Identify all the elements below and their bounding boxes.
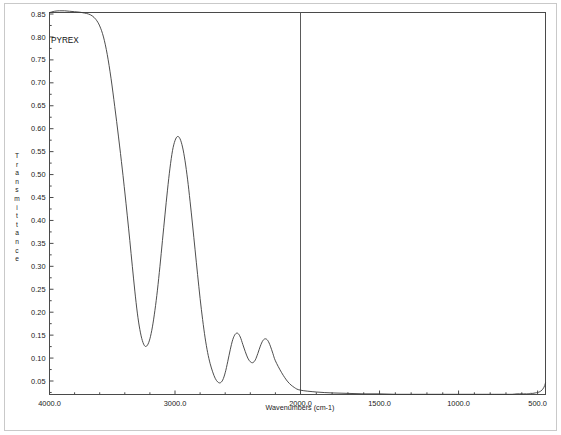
y-tick-label: 0.80	[31, 33, 45, 42]
x-tick-label: 4000.0	[38, 399, 61, 408]
y-axis-title-letter: r	[16, 161, 19, 168]
spectrum-curve	[50, 11, 546, 395]
spectrum-page: 4000.03000.02000.01500.01000.0500.0 0.05…	[0, 0, 561, 435]
y-axis-title-letter: T	[15, 152, 19, 159]
y-axis-title-letter: s	[15, 186, 19, 193]
y-axis-title-letter: t	[16, 221, 18, 228]
y-tick-label: 0.30	[31, 262, 45, 271]
y-axis-title: Transmittance	[14, 152, 20, 262]
y-axis-title-letter: m	[14, 195, 20, 202]
y-axis-title-letter: t	[16, 212, 18, 219]
y-tick-label: 0.35	[31, 239, 45, 248]
x-tick-label: 500.0	[528, 399, 547, 408]
x-axis-title: Wavenumbers (cm-1)	[266, 403, 335, 412]
x-tick-label: 3000.0	[164, 399, 187, 408]
y-axis-ticks	[50, 14, 54, 392]
y-tick-label: 0.20	[31, 308, 45, 317]
y-tick-label: 0.40	[31, 216, 45, 225]
y-tick-label: 0.05	[31, 377, 45, 386]
y-axis-title-letter: c	[15, 247, 19, 254]
y-tick-label: 0.85	[31, 10, 45, 19]
y-tick-label: 0.45	[31, 193, 45, 202]
y-tick-label: 0.70	[31, 78, 45, 87]
spectrum-curve-group	[50, 11, 546, 395]
y-tick-label: 0.75	[31, 55, 45, 64]
y-tick-label: 0.25	[31, 285, 45, 294]
x-tick-label: 1000.0	[447, 399, 470, 408]
y-tick-label: 0.60	[31, 124, 45, 133]
ftir-spectrum-chart: 4000.03000.02000.01500.01000.0500.0 0.05…	[0, 0, 561, 435]
y-axis-title-letter: i	[16, 204, 18, 211]
y-tick-label: 0.55	[31, 147, 45, 156]
y-axis-title-letter: n	[15, 238, 19, 245]
y-tick-label: 0.15	[31, 331, 45, 340]
y-axis-title-letter: a	[15, 169, 19, 176]
plot-frame	[50, 13, 546, 395]
pyrex-annotation: PYREX	[51, 36, 79, 45]
y-tick-label: 0.65	[31, 101, 45, 110]
y-axis-title-letter: n	[15, 178, 19, 185]
y-tick-label: 0.50	[31, 170, 45, 179]
x-tick-label: 1500.0	[368, 399, 391, 408]
y-axis-tick-labels: 0.050.100.150.200.250.300.350.400.450.50…	[31, 10, 45, 386]
y-axis-title-letter: a	[15, 229, 19, 236]
y-tick-label: 0.10	[31, 354, 45, 363]
y-axis-title-letter: e	[15, 255, 19, 262]
